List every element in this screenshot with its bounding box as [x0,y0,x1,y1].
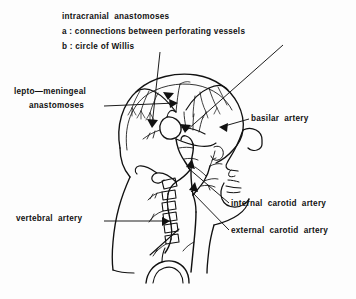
anatomy-illustration [0,0,356,299]
ext-carotid-branch-lingual [204,179,218,181]
carotid-bifurcation [193,195,196,212]
posterior-cerebral-artery [176,139,216,146]
leader-external-carotid [191,191,229,230]
label-basilar-artery: basilar artery [251,115,309,123]
subclavian-origin [162,248,165,262]
vertebral-muscular-branch-1 [148,192,162,200]
aortic-arch-inner [153,267,183,283]
vertebral-artery [165,170,190,253]
cortical-branch-b1 [200,92,206,112]
lenticulostriate-cluster [143,130,160,139]
arrowhead-basilar [219,123,228,132]
label-external-carotid-artery: external carotid artery [231,227,328,235]
lepto-twig-3 [128,108,136,116]
inferior-cervical-branch [183,242,194,251]
lower-lip [227,192,240,193]
basilar-branch-1 [179,147,193,148]
upper-lip [228,180,239,182]
cortical-branch-a2 [141,91,149,111]
cortical-twig-b2 [214,108,220,114]
label-key-a-perforating-vessels: a : connections between perforating vess… [62,28,245,36]
label-internal-carotid-artery: internal carotid artery [231,200,326,208]
leader-lepto-meningeal [104,103,176,106]
neck-anterior-outline [207,225,214,273]
vertebral-muscular-branch-2 [149,211,163,222]
face-profile [243,129,262,151]
ext-carotid-branch-occipital [195,167,206,176]
arrowhead-internal-carotid [186,159,195,169]
lepto-twig-2 [137,111,145,119]
label-lepto-meningeal-line1: lepto—meningeal [14,88,86,96]
anterior-cerebral-artery [167,110,176,117]
suboccipital-curve [135,166,157,174]
nose-bridge [226,130,243,171]
mouth-line [226,186,241,188]
label-intracranial-anastomoses: intracranial anastomoses [62,13,169,21]
ext-carotid-branch-maxillary [210,164,222,166]
cervical-vertebrae [162,178,179,244]
vertebral-loop-atlas [152,173,176,183]
figure-canvas: intracranial anastomoses a : connections… [0,0,356,299]
cortical-vessel-trunk-b [186,86,228,110]
label-key-b-circle-of-willis: b : circle of Willis [62,43,134,51]
shoulder-left [113,270,134,273]
arrowhead-external-carotid [189,182,198,192]
leader-basilar-artery [221,119,249,127]
label-lepto-meningeal-line2: anastomoses [29,102,84,110]
arrowheads [147,92,228,226]
skull-base-left [120,148,130,177]
neck-posterior-outline [112,177,130,270]
label-vertebral-artery: vertebral artery [16,215,82,223]
circle-of-willis [160,117,181,139]
cortical-branch-top [176,84,180,112]
